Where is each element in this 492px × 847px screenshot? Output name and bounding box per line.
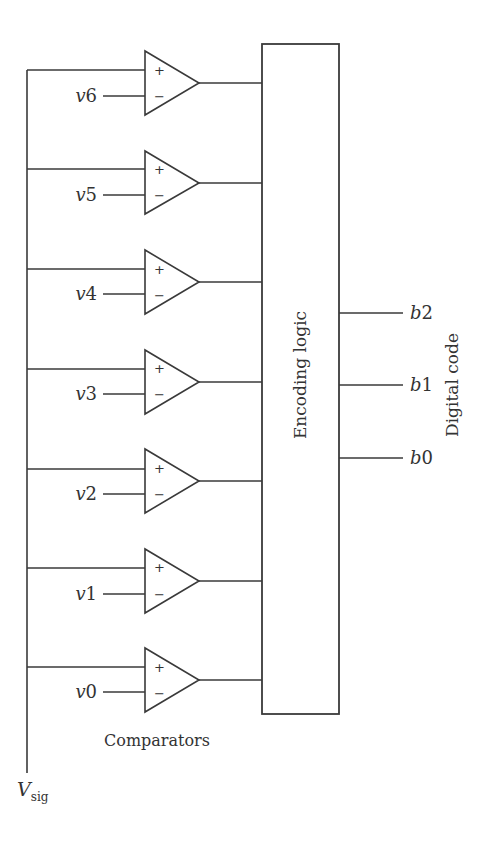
output-bit-label: b2 [410,302,433,323]
minus-sign: − [154,288,165,303]
ref-label: v4 [75,283,97,304]
minus-sign: − [154,188,165,203]
comparator-triangle [145,51,199,115]
minus-sign: − [154,89,165,104]
ref-label: v5 [75,184,97,205]
comparator-triangle [145,449,199,513]
comparator-triangle [145,250,199,314]
comparator-triangle [145,648,199,712]
comparator-v4: + − v4 [27,250,262,314]
comparator-v3: + − v3 [27,350,262,414]
output-bit-label: b1 [410,374,433,395]
comparator-v0: + − v0 [27,648,262,712]
minus-sign: − [154,686,165,701]
ref-label: v0 [75,681,97,702]
output-b0: b0 [339,447,433,468]
plus-sign: + [154,461,165,476]
vsig-label: Vsig [17,778,49,804]
comparator-v6: + − v6 [27,51,262,115]
comparator-v2: + − v2 [27,449,262,513]
comparators-label: Comparators [104,731,210,750]
ref-label: v3 [75,383,97,404]
comparator-triangle [145,549,199,613]
comparator-triangle [145,350,199,414]
plus-sign: + [154,560,165,575]
digital-code-label: Digital code [442,333,462,437]
output-bit-label: b0 [410,447,433,468]
comparator-v1: + − v1 [27,549,262,613]
output-b1: b1 [339,374,433,395]
ref-label: v2 [75,483,97,504]
comparator-v5: + − v5 [27,151,262,214]
plus-sign: + [154,262,165,277]
comparator-triangle [145,151,199,214]
encoding-logic-label: Encoding logic [290,311,310,439]
plus-sign: + [154,162,165,177]
minus-sign: − [154,487,165,502]
minus-sign: − [154,587,165,602]
minus-sign: − [154,387,165,402]
plus-sign: + [154,660,165,675]
plus-sign: + [154,63,165,78]
ref-label: v6 [75,85,97,106]
plus-sign: + [154,361,165,376]
output-b2: b2 [339,302,433,323]
flash-adc-diagram: Encoding logic + − v6 + − v5 + − v4 + − [0,0,492,847]
ref-label: v1 [75,583,97,604]
